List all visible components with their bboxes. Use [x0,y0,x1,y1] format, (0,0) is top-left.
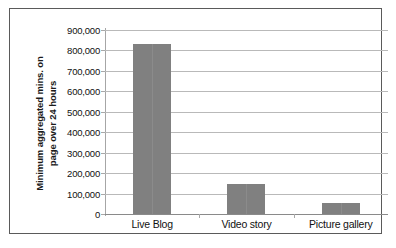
y-axis-tick-mark [101,30,105,31]
y-axis-tick-label: 100,000 [67,188,100,199]
y-axis-tick-label: 300,000 [67,147,100,158]
y-axis-tick-label: 400,000 [67,127,100,138]
x-axis-tick-mark [294,214,295,218]
bar-seam [246,184,247,214]
y-axis-title-line-1: Minimum aggregated mins. on [34,56,47,191]
x-axis-tick-labels: Live BlogVideo storyPicture gallery [105,218,388,238]
x-axis-tick-mark [199,214,200,218]
y-axis-tick-label: 500,000 [67,106,100,117]
y-axis-tick-mark [101,112,105,113]
chart-frame: Minimum aggregated mins. on page over 24… [9,8,382,234]
bar-slot [105,30,199,214]
y-axis-tick-label: 700,000 [67,65,100,76]
y-axis-tick-label: 0 [95,209,100,220]
y-axis-tick-label: 600,000 [67,86,100,97]
x-axis-tick-label: Picture gallery [309,218,373,230]
bar-seam [152,44,153,214]
y-axis-tick-mark [101,132,105,133]
plot-area [105,30,388,214]
bar[interactable] [322,203,360,214]
y-axis-tick-label: 800,000 [67,45,100,56]
bar[interactable] [133,44,171,214]
y-axis-tick-labels: 900,000800,000700,000600,000500,000400,0… [54,30,104,214]
bars-layer [105,30,388,214]
y-axis-tick-mark [101,153,105,154]
y-axis-tick-mark [101,194,105,195]
y-axis-tick-mark [101,91,105,92]
x-axis-tick-label: Video story [221,218,271,230]
y-axis-tick-mark [101,71,105,72]
bar[interactable] [227,184,265,214]
bar-seam [341,203,342,214]
x-axis-line [105,214,388,215]
bar-slot [294,30,388,214]
bar-chart-figure: Minimum aggregated mins. on page over 24… [0,0,396,248]
y-axis-tick-mark [101,214,105,215]
y-axis-tick-label: 200,000 [67,168,100,179]
x-axis-tick-label: Live Blog [131,218,172,230]
bar-slot [199,30,293,214]
y-axis-tick-label: 900,000 [67,25,100,36]
y-axis-tick-mark [101,173,105,174]
y-axis-tick-mark [101,50,105,51]
